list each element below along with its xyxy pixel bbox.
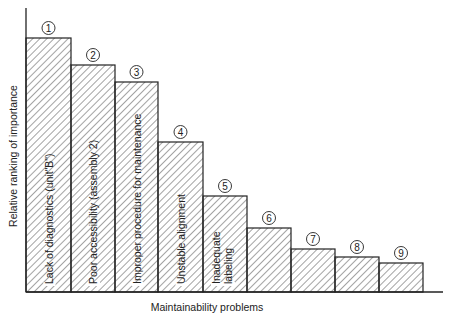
bar-5: 5Inadequatelabeling: [203, 180, 247, 293]
bar-6: 6: [247, 212, 291, 293]
bar-2: 2Poor accessibility (assembly 2): [71, 49, 115, 293]
rank-label: 2: [90, 50, 96, 61]
rank-label: 8: [354, 242, 360, 253]
bar-9: 9: [379, 247, 423, 293]
chart-plot: 1Lack of diagnostics (unit"B")2Poor acce…: [0, 0, 454, 324]
rank-label: 7: [310, 234, 316, 245]
bar-4: 4Unstable alignment: [158, 126, 203, 293]
bars-group: 1Lack of diagnostics (unit"B")2Poor acce…: [26, 22, 423, 293]
category-label: Improper procedure for maintenance: [131, 113, 143, 284]
rank-label: 6: [266, 213, 272, 224]
bar-3: 3Improper procedure for maintenance: [115, 66, 158, 293]
x-axis-label: Maintainability problems: [0, 301, 454, 313]
bar-7: 7: [291, 233, 335, 293]
category-label: labeling: [222, 248, 234, 284]
rank-label: 9: [398, 248, 404, 259]
rank-label: 3: [134, 67, 140, 78]
pareto-chart: 1Lack of diagnostics (unit"B")2Poor acce…: [0, 0, 454, 324]
bar-8: 8: [335, 241, 379, 293]
rank-label: 1: [46, 23, 52, 34]
rank-label: 4: [178, 127, 184, 138]
y-axis-label: Relative ranking of importance: [7, 81, 19, 231]
category-label: Poor accessibility (assembly 2): [87, 140, 99, 284]
bar-1: 1Lack of diagnostics (unit"B"): [26, 22, 71, 293]
rank-label: 5: [222, 181, 228, 192]
category-label: Inadequate: [210, 231, 222, 284]
category-label: Lack of diagnostics (unit"B"): [43, 153, 55, 284]
category-label: Unstable alignment: [175, 194, 187, 284]
